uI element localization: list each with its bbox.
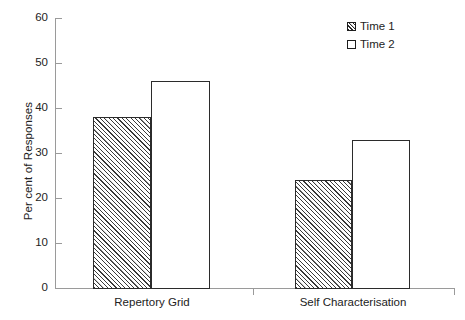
hatched-square-icon [347, 22, 356, 31]
bar-repertory-grid-time-2 [151, 81, 210, 289]
bar-self-characterisation-time-1 [295, 180, 352, 289]
x-category-label-self-characterisation: Self Characterisation [283, 296, 423, 308]
x-category-label-repertory-grid: Repertory Grid [92, 296, 212, 308]
legend-item-time-1: Time 1 [347, 17, 395, 35]
bar-chart: Per cent of Responses 60 50 40 30 20 10 … [0, 0, 465, 320]
bar-self-characterisation-time-2 [352, 140, 410, 290]
bar-repertory-grid-time-1 [93, 117, 151, 289]
bars-layer [0, 0, 465, 320]
legend-item-time-2: Time 2 [347, 35, 395, 53]
legend-label-time-1: Time 1 [360, 20, 395, 32]
legend-label-time-2: Time 2 [360, 38, 395, 50]
empty-square-icon [347, 40, 356, 49]
legend: Time 1 Time 2 [347, 17, 395, 53]
